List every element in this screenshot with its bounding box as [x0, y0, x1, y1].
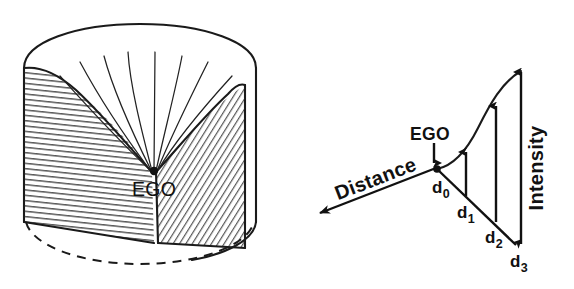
d3-subscript: 3: [521, 261, 528, 275]
d2-subscript: 2: [496, 237, 503, 251]
right-ego-point-marker: [433, 165, 441, 173]
d1-subscript: 1: [468, 212, 475, 226]
intensity-axis-label: Intensity: [525, 125, 547, 211]
d0-subscript: 0: [443, 187, 450, 201]
d2-base: d: [485, 228, 496, 247]
d3-base: d: [510, 252, 521, 271]
figure-root: EGO EGO Distance Intensity: [0, 0, 574, 289]
left-ego-label: EGO: [132, 178, 176, 200]
ego-point-marker: [150, 167, 158, 175]
left-panel-egocentric-cylinder: EGO: [10, 24, 256, 270]
d1-base: d: [457, 203, 468, 222]
right-ego-label: EGO: [410, 124, 450, 144]
scientific-figure: EGO EGO Distance Intensity: [0, 0, 574, 289]
d0-base: d: [432, 178, 443, 197]
